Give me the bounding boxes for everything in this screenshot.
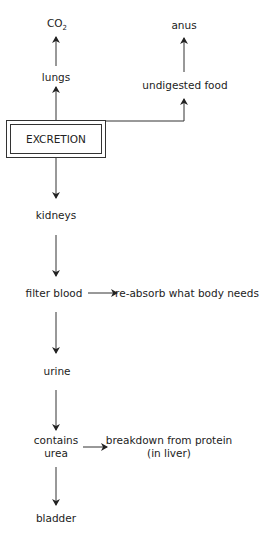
excretion-box: EXCRETION	[6, 120, 106, 158]
co2-label: CO	[47, 17, 63, 29]
node-reabsorb: re-absorb what body needs	[115, 287, 259, 300]
breakdown-line1: breakdown from protein	[106, 434, 233, 447]
node-undigested-food: undigested food	[142, 79, 227, 92]
node-contains-urea: contains urea	[34, 434, 78, 460]
node-kidneys: kidneys	[36, 209, 76, 222]
node-urine: urine	[43, 365, 70, 378]
node-anus: anus	[171, 19, 196, 32]
co2-subscript: 2	[63, 24, 67, 32]
node-filter-blood: filter blood	[26, 287, 83, 300]
node-bladder: bladder	[36, 512, 76, 525]
node-lungs: lungs	[42, 71, 70, 84]
node-co2: CO2	[47, 17, 67, 35]
contains-line2: urea	[34, 447, 78, 460]
excretion-label: EXCRETION	[10, 124, 102, 154]
breakdown-line2: (in liver)	[106, 447, 233, 460]
node-breakdown: breakdown from protein (in liver)	[106, 434, 233, 460]
contains-line1: contains	[34, 434, 78, 447]
